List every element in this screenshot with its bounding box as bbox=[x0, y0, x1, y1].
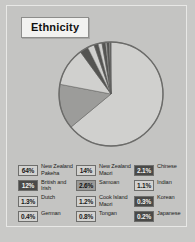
chart-legend: 64%New Zealand Pakeha12%British and Iris… bbox=[18, 164, 190, 226]
legend-swatch: 2.1% bbox=[134, 165, 154, 176]
legend-swatch: 14% bbox=[76, 165, 96, 176]
legend-item: 2.1%Chinese bbox=[134, 164, 192, 180]
legend-swatch: 64% bbox=[18, 165, 38, 176]
legend-label: Korean bbox=[157, 194, 192, 201]
pie-chart bbox=[57, 36, 165, 154]
legend-column-3: 2.1%Chinese1.1%Indian0.3%Korean0.2%Japan… bbox=[134, 164, 192, 226]
legend-label: German bbox=[41, 210, 76, 217]
legend-column-1: 64%New Zealand Pakeha12%British and Iris… bbox=[18, 164, 76, 226]
legend-swatch: 1.3% bbox=[18, 196, 38, 207]
legend-column-2: 14%New Zealand Maori2.6%Samoan1.2%Cook I… bbox=[76, 164, 134, 226]
legend-label: New Zealand Maori bbox=[99, 163, 134, 176]
legend-swatch: 0.8% bbox=[76, 211, 96, 222]
legend-item: 0.4%German bbox=[18, 211, 76, 227]
legend-item: 1.2%Cook Island Maori bbox=[76, 195, 134, 211]
legend-label: Tongan bbox=[99, 210, 134, 217]
legend-item: 1.1%Indian bbox=[134, 180, 192, 196]
legend-item: 1.3%Dutch bbox=[18, 195, 76, 211]
legend-item: 64%New Zealand Pakeha bbox=[18, 164, 76, 180]
legend-swatch: 1.2% bbox=[76, 196, 96, 207]
chart-panel: Ethnicity 64%New Zealand Pakeha12%Britis… bbox=[6, 5, 187, 227]
pie-chart-svg bbox=[57, 36, 165, 154]
legend-item: 0.8%Tongan bbox=[76, 211, 134, 227]
legend-item: 14%New Zealand Maori bbox=[76, 164, 134, 180]
legend-swatch: 12% bbox=[18, 180, 38, 191]
legend-label: Samoan bbox=[99, 179, 134, 186]
legend-swatch: 1.1% bbox=[134, 180, 154, 191]
legend-item: 0.2%Japanese bbox=[134, 211, 192, 227]
legend-label: British and Irish bbox=[41, 179, 76, 192]
legend-label: Indian bbox=[157, 179, 192, 186]
legend-swatch: 2.6% bbox=[76, 180, 96, 191]
legend-item: 12%British and Irish bbox=[18, 180, 76, 196]
legend-swatch: 0.4% bbox=[18, 211, 38, 222]
legend-item: 0.3%Korean bbox=[134, 195, 192, 211]
legend-label: Chinese bbox=[157, 163, 192, 170]
legend-label: New Zealand Pakeha bbox=[41, 163, 76, 176]
image-frame: Ethnicity 64%New Zealand Pakeha12%Britis… bbox=[0, 0, 195, 242]
page-title-text: Ethnicity bbox=[31, 21, 79, 33]
page-title: Ethnicity bbox=[21, 17, 89, 38]
legend-item: 2.6%Samoan bbox=[76, 180, 134, 196]
legend-swatch: 0.2% bbox=[134, 211, 154, 222]
legend-label: Dutch bbox=[41, 194, 76, 201]
legend-swatch: 0.3% bbox=[134, 196, 154, 207]
legend-label: Japanese bbox=[157, 210, 192, 217]
legend-label: Cook Island Maori bbox=[99, 194, 134, 207]
